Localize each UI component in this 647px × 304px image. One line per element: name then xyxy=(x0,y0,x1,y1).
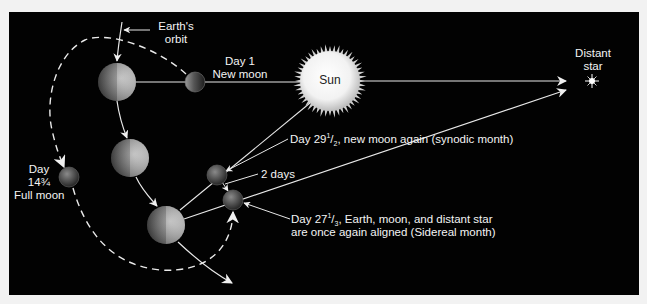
sidereal-fraction-num: 1 xyxy=(327,212,331,219)
distant-star-label: Distant star xyxy=(568,47,618,73)
sidereal-day-text: Day 27 xyxy=(291,213,327,225)
day1-new-moon-label: Day 1 New moon xyxy=(205,55,275,81)
distant-star-label-line1: Distant xyxy=(568,47,618,60)
full-moon-label-line2: 14¾ xyxy=(14,176,64,189)
moon-day-1 xyxy=(185,72,205,92)
earth-position-2 xyxy=(111,139,149,177)
earth-position-3 xyxy=(147,206,185,244)
earths-orbit-label: Earth's orbit xyxy=(150,20,202,46)
distant-star-icon xyxy=(585,74,599,88)
sidereal-description-line2: are once again aligned (Sidereal month) xyxy=(291,226,496,239)
full-moon-label: Day 14¾ Full moon xyxy=(14,163,64,202)
day1-label-line2: New moon xyxy=(205,68,275,81)
earth-orbit-path-1 xyxy=(117,22,122,61)
earths-orbit-label-line2: orbit xyxy=(150,33,202,46)
earth-orbit-path-2 xyxy=(117,101,127,138)
moon-day-27-33 xyxy=(223,190,243,210)
earth-position-1 xyxy=(98,63,136,101)
synodic-day-text: Day 29 xyxy=(290,133,326,145)
synodic-fraction-num: 1 xyxy=(326,132,330,139)
two-days-label: 2 days xyxy=(261,168,295,181)
moon-orbit-diagram xyxy=(0,0,647,304)
earth-orbit-path-3 xyxy=(136,177,157,206)
synodic-month-label: Day 291/2, new moon again (synodic month… xyxy=(290,133,513,146)
sidereal-description: , Earth, moon, and distant star xyxy=(338,213,492,225)
two-days-pointer xyxy=(225,174,258,184)
earths-orbit-label-line1: Earth's xyxy=(150,20,202,33)
synodic-description: , new moon again (synodic month) xyxy=(337,133,513,145)
day1-label-line1: Day 1 xyxy=(205,55,275,68)
sidereal-month-label: Day 271/3, Earth, moon, and distant star… xyxy=(291,213,496,239)
full-moon-label-line1: Day xyxy=(14,163,64,176)
distant-star-label-line2: star xyxy=(568,60,618,73)
sidereal-label-pointer xyxy=(244,203,290,219)
moon-day-29-5 xyxy=(207,165,227,185)
synodic-label-pointer xyxy=(226,139,288,171)
sun-label: Sun xyxy=(300,74,360,87)
full-moon-label-line3: Full moon xyxy=(14,189,64,202)
synodic-alignment-line xyxy=(180,103,310,210)
